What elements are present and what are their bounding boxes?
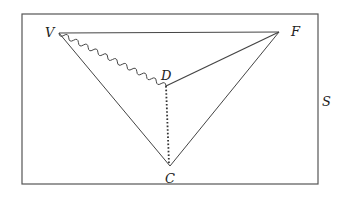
diagram-canvas: V F D C S: [0, 0, 348, 197]
label-f: F: [290, 24, 301, 39]
label-d: D: [160, 68, 172, 83]
edge-f-c: [170, 32, 279, 166]
edge-v-c: [59, 33, 170, 166]
edge-v-f: [59, 32, 279, 33]
edge-f-d: [166, 32, 279, 86]
edge-v-d-wavy: [59, 33, 166, 86]
label-c: C: [165, 171, 175, 186]
region-frame: [22, 14, 318, 184]
edge-d-c-dotted: [166, 86, 169, 164]
label-v: V: [45, 25, 56, 40]
label-s: S: [322, 94, 331, 109]
